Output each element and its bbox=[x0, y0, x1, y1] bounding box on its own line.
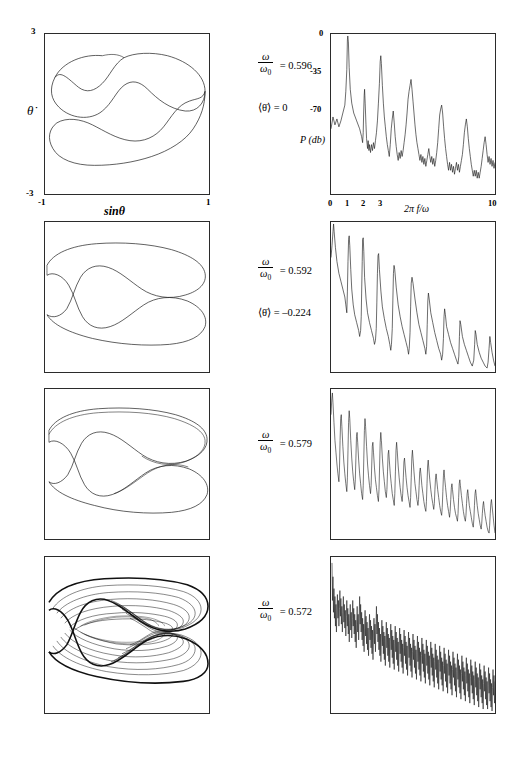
omega-numerator: ω bbox=[258, 429, 273, 440]
phase-ylabel-row-1: θ̇ bbox=[27, 103, 33, 119]
power-spectrum-panel-row-1 bbox=[330, 33, 496, 195]
phase-xtick-left-row-1: -1 bbox=[38, 197, 46, 207]
omega-ratio-value: = 0.592 bbox=[280, 265, 312, 276]
figure-canvas: 3 -3 -1 1 θ̇ sinθ ω ω0 = 0.596 ⟨θ̇⟩ = 0 … bbox=[0, 0, 525, 772]
power-spectrum-panel-row-3 bbox=[330, 388, 496, 540]
spectrum-xtick-2-row-1: 2 bbox=[361, 198, 365, 208]
phase-portrait-panel-row-2 bbox=[44, 221, 210, 373]
phase-ytick-top-row-1: 3 bbox=[31, 26, 36, 36]
phase-portrait-curve-row-2 bbox=[45, 222, 209, 372]
spectrum-xlabel-row-1: 2π f/ω bbox=[404, 203, 429, 214]
omega-denominator: ω0 bbox=[258, 62, 273, 77]
phase-portrait-panel-row-1 bbox=[44, 33, 210, 195]
omega-ratio-fraction: ω ω0 bbox=[258, 256, 273, 282]
spectrum-ytick-35-row-1: -35 bbox=[310, 66, 321, 76]
omega-numerator: ω bbox=[258, 51, 273, 62]
spectrum-xtick-3-row-1: 3 bbox=[378, 198, 382, 208]
annotation-mean-velocity-row-2: ⟨θ̇⟩ = –0.224 bbox=[258, 306, 311, 318]
spectrum-xtick-1-row-1: 1 bbox=[345, 198, 349, 208]
omega-ratio-value: = 0.596 bbox=[280, 60, 312, 71]
phase-portrait-curve-row-1 bbox=[45, 34, 209, 194]
omega-denominator: ω0 bbox=[258, 440, 273, 455]
omega-denominator: ω0 bbox=[258, 267, 273, 282]
power-spectrum-trace-row-3 bbox=[331, 389, 495, 539]
phase-portrait-attractor-row-4 bbox=[45, 557, 209, 713]
spectrum-ytick-0-row-1: 0 bbox=[319, 28, 323, 38]
spectrum-ytick-70-row-1: -70 bbox=[310, 104, 321, 114]
phase-portrait-panel-row-4 bbox=[44, 556, 210, 714]
power-spectrum-panel-row-2 bbox=[330, 221, 496, 373]
omega-ratio-value: = 0.579 bbox=[280, 438, 312, 449]
annotation-ratio-row-3: ω ω0 = 0.579 bbox=[258, 430, 312, 456]
phase-ytick-bottom-row-1: -3 bbox=[26, 188, 34, 198]
annotation-ratio-row-4: ω ω0 = 0.572 bbox=[258, 598, 312, 624]
annotation-ratio-row-1: ω ω0 = 0.596 bbox=[258, 52, 312, 78]
omega-ratio-fraction: ω ω0 bbox=[258, 51, 273, 77]
power-spectrum-panel-row-4 bbox=[330, 556, 496, 714]
annotation-ratio-row-2: ω ω0 = 0.592 bbox=[258, 257, 312, 283]
phase-portrait-curve-row-3 bbox=[45, 389, 209, 539]
power-spectrum-trace-row-4 bbox=[331, 557, 495, 713]
omega-denominator: ω0 bbox=[258, 608, 273, 623]
spectrum-xtick-10-row-1: 10 bbox=[488, 198, 497, 208]
phase-xtick-right-row-1: 1 bbox=[206, 197, 211, 207]
omega-ratio-fraction: ω ω0 bbox=[258, 597, 273, 623]
omega-numerator: ω bbox=[258, 597, 273, 608]
phase-portrait-panel-row-3 bbox=[44, 388, 210, 540]
omega-ratio-fraction: ω ω0 bbox=[258, 429, 273, 455]
omega-ratio-value: = 0.572 bbox=[280, 606, 312, 617]
annotation-mean-velocity-row-1: ⟨θ̇⟩ = 0 bbox=[258, 101, 287, 113]
power-spectrum-trace-row-2 bbox=[331, 222, 495, 372]
phase-xlabel-row-1: sinθ bbox=[104, 204, 125, 219]
power-spectrum-trace-row-1 bbox=[331, 34, 495, 194]
spectrum-xtick-0-row-1: 0 bbox=[328, 198, 332, 208]
omega-numerator: ω bbox=[258, 256, 273, 267]
spectrum-ylabel-row-1: P (db) bbox=[300, 134, 325, 145]
